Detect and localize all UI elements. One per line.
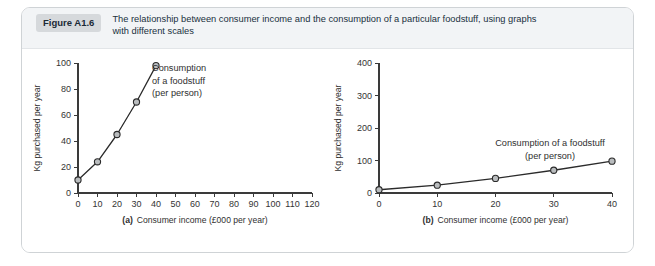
x-tick-label: 40 — [607, 199, 617, 209]
panel-letter: (a) — [122, 215, 133, 225]
y-tick-label: 60 — [61, 110, 71, 120]
chart-panel-b: 0100200300400010203040Kg purchased per y… — [322, 49, 633, 252]
x-axis-title: (b)Consumer income (£000 per year) — [423, 215, 569, 225]
chart-annotation-line: Consumption of a foodstuff — [495, 138, 605, 148]
x-tick-label: 0 — [376, 199, 381, 209]
x-tick-label: 60 — [190, 199, 200, 209]
x-tick-label: 40 — [151, 199, 161, 209]
x-tick-label: 30 — [131, 199, 141, 209]
charts-area: 0204060801000102030405060708090100110120… — [22, 49, 633, 252]
x-tick-label: 80 — [229, 199, 239, 209]
y-tick-label: 0 — [66, 188, 71, 198]
y-tick-label: 300 — [357, 91, 372, 101]
x-tick-label: 50 — [170, 199, 180, 209]
y-axis-title: Kg purchased per year — [333, 84, 343, 171]
y-tick-label: 0 — [367, 188, 372, 198]
panel-letter: (b) — [423, 215, 434, 225]
chart-panel-a: 0204060801000102030405060708090100110120… — [22, 49, 322, 252]
y-tick-label: 100 — [357, 156, 372, 166]
data-point-marker — [75, 177, 81, 183]
x-axis-title: (a)Consumer income (£000 per year) — [122, 215, 268, 225]
x-tick-label: 100 — [265, 199, 280, 209]
x-tick-label: 0 — [75, 199, 80, 209]
data-point-marker — [94, 159, 100, 165]
y-tick-label: 200 — [357, 123, 372, 133]
y-tick-label: 80 — [61, 84, 71, 94]
y-tick-label: 40 — [61, 136, 71, 146]
x-tick-label: 10 — [92, 199, 102, 209]
data-point-marker — [609, 158, 615, 164]
chart-annotation-line: (per person) — [525, 151, 575, 161]
y-tick-label: 100 — [56, 58, 71, 68]
data-point-marker — [434, 182, 440, 188]
chart-annotation-line: (per person) — [152, 88, 202, 98]
data-point-marker — [133, 99, 139, 105]
x-tick-label: 30 — [549, 199, 559, 209]
x-tick-label: 120 — [304, 199, 319, 209]
chart-annotation-line: Consumption — [152, 63, 206, 73]
figure-number-badge: Figure A1.6 — [36, 14, 101, 32]
y-axis-title: Kg purchased per year — [32, 84, 42, 171]
chart-a-plot: 0204060801000102030405060708090100110120… — [22, 49, 322, 252]
x-tick-label: 70 — [209, 199, 219, 209]
x-tick-label: 90 — [248, 199, 258, 209]
data-point-marker — [492, 175, 498, 181]
figure-caption-line-1: The relationship between consumer income… — [112, 13, 619, 25]
figure-caption: The relationship between consumer income… — [112, 13, 619, 37]
chart-b-plot: 0100200300400010203040Kg purchased per y… — [322, 49, 633, 252]
figure-card: Figure A1.6 The relationship between con… — [21, 7, 634, 253]
x-tick-label: 110 — [285, 199, 299, 209]
chart-annotation-line: of a foodstuff — [152, 76, 205, 86]
data-point-marker — [114, 131, 120, 137]
data-point-marker — [376, 187, 382, 193]
x-tick-label: 10 — [432, 199, 442, 209]
figure-caption-line-2: with different scales — [112, 25, 619, 37]
data-point-marker — [551, 167, 557, 173]
y-tick-label: 20 — [61, 162, 71, 172]
figure-header: Figure A1.6 The relationship between con… — [22, 8, 633, 49]
x-tick-label: 20 — [490, 199, 500, 209]
y-tick-label: 400 — [357, 58, 372, 68]
axis-lines — [379, 63, 612, 193]
data-series-line — [78, 66, 156, 180]
x-tick-label: 20 — [112, 199, 122, 209]
